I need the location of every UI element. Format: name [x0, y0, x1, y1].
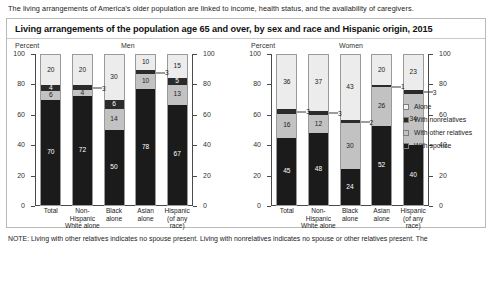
x-axis-label-women-4: Hispanic(of anyrace) [393, 207, 433, 230]
y-tick-label-left-40: 40 [17, 141, 25, 148]
bar-value-callout: 2 [370, 118, 374, 125]
y-axis-title-men: Percent [15, 42, 39, 49]
bar-segment-nonrel: 5 [168, 78, 187, 86]
bar-value-label: 30 [110, 74, 117, 81]
legend-label: With other relatives [414, 129, 472, 136]
bar-value-label: 45 [283, 168, 290, 175]
bar-value-label: 6 [112, 101, 116, 108]
x-labels-men: TotalNon-HispanicWhite aloneBlackaloneAs… [35, 207, 193, 237]
bar-segment-spouse: 48 [309, 133, 328, 205]
callout-leader-line [93, 88, 102, 89]
legend-item-otherrel[interactable]: With other relatives [403, 129, 477, 136]
bar-segment-alone: 30 [105, 55, 124, 100]
bar-segment-spouse: 70 [41, 100, 60, 205]
bar-value-label: 43 [346, 84, 353, 91]
bar-men-1[interactable]: 203472 [72, 54, 93, 206]
bars-men: 204670203472306145010310781551367 [35, 54, 193, 206]
bar-women-3[interactable]: 2012652 [371, 54, 392, 206]
bar-men-0[interactable]: 204670 [40, 54, 61, 206]
chart-title-men: Men [121, 42, 135, 49]
bar-segment-spouse: 50 [105, 130, 124, 205]
panel-title: Living arrangements of the population ag… [7, 19, 485, 38]
bar-value-callout: 3 [102, 84, 106, 91]
x-axis-label-line: White alone [62, 222, 102, 230]
bar-value-label: 12 [315, 121, 322, 128]
figure-page: The living arrangements of America’s old… [0, 0, 492, 290]
bar-value-label: 23 [410, 69, 417, 76]
y-tick-label-right-0: 0 [203, 202, 207, 209]
bar-women-1[interactable]: 3731248 [308, 54, 329, 206]
bar-segment-spouse: 78 [136, 89, 155, 205]
bar-value-label: 26 [378, 103, 385, 110]
bar-segment-spouse: 24 [341, 169, 360, 205]
bar-women-2[interactable]: 4323024 [340, 54, 361, 206]
bar-value-label: 13 [174, 91, 181, 98]
bar-value-label: 67 [174, 151, 181, 158]
bar-value-label: 50 [110, 164, 117, 171]
bar-value-callout: 1 [401, 83, 405, 90]
y-tick-label-left-100: 100 [13, 50, 25, 57]
bar-segment-spouse: 67 [168, 105, 187, 206]
bar-segment-spouse: 45 [277, 138, 296, 206]
y-tick-right-20: 20 [429, 176, 433, 177]
bar-segment-otherrel: 10 [136, 74, 155, 89]
bar-women-0[interactable]: 3631645 [276, 54, 297, 206]
y-tick-label-right-100: 100 [203, 50, 215, 57]
bar-value-label: 30 [346, 143, 353, 150]
bar-value-label: 16 [283, 122, 290, 129]
y-tick-label-right-80: 80 [439, 80, 447, 87]
bar-segment-otherrel: 6 [41, 91, 60, 100]
callout-leader-line [329, 113, 338, 114]
charts-area: Percent Men 002020404060608080100100 204… [7, 39, 485, 222]
legend-item-alone[interactable]: Alone [403, 103, 477, 110]
legend-label: With nonrelatives [414, 116, 466, 123]
x-axis-label-line: race) [157, 222, 197, 230]
y-tick-label-left-40: 40 [253, 141, 261, 148]
y-tick-label-left-0: 0 [21, 202, 25, 209]
bar-segment-alone: 37 [309, 55, 328, 111]
plot-men: 002020404060608080100100 204670203472306… [35, 54, 193, 206]
y-tick-label-left-60: 60 [17, 110, 25, 117]
legend-item-spouse[interactable]: With spouse [403, 142, 477, 149]
bar-value-label: 40 [410, 172, 417, 179]
x-labels-women: TotalNon-HispanicWhite aloneBlackaloneAs… [271, 207, 429, 237]
y-tick-label-left-80: 80 [17, 80, 25, 87]
x-axis-label-line: (of any [393, 215, 433, 223]
bar-value-label: 48 [315, 166, 322, 173]
y-tick-right-40: 40 [193, 145, 197, 146]
legend-swatch-alone [403, 104, 409, 110]
bar-men-3[interactable]: 1031078 [135, 54, 156, 206]
x-axis-label-men-4: Hispanic(of anyrace) [157, 207, 197, 230]
bar-segment-spouse: 72 [73, 96, 92, 205]
x-axis-label-line: Hispanic [393, 207, 433, 215]
bar-value-callout: 3 [306, 108, 310, 115]
callout-leader-line [297, 111, 306, 112]
bar-men-4[interactable]: 1551367 [167, 54, 188, 206]
bar-value-label: 5 [175, 78, 179, 85]
y-tick-label-left-80: 80 [253, 80, 261, 87]
y-tick-label-left-20: 20 [253, 171, 261, 178]
bar-value-label: 14 [110, 116, 117, 123]
y-tick-label-right-0: 0 [439, 202, 443, 209]
bar-segment-otherrel: 16 [277, 114, 296, 138]
callout-leader-line [392, 86, 401, 87]
y-tick-label-right-60: 60 [203, 110, 211, 117]
bar-value-label: 20 [378, 67, 385, 74]
bar-segment-otherrel: 30 [341, 123, 360, 168]
bar-value-label: 70 [47, 149, 54, 156]
bar-segment-alone: 36 [277, 55, 296, 109]
bar-value-label: 72 [79, 147, 86, 154]
callout-leader-line [156, 72, 165, 73]
y-tick-label-right-20: 20 [203, 171, 211, 178]
bar-value-label: 24 [346, 184, 353, 191]
bar-men-2[interactable]: 3061450 [104, 54, 125, 206]
x-axis-label-line: Hispanic [157, 207, 197, 215]
legend-label: With spouse [414, 142, 451, 149]
bar-segment-otherrel: 13 [168, 85, 187, 105]
bar-value-label: 36 [283, 79, 290, 86]
y-tick-label-right-80: 80 [203, 80, 211, 87]
bar-segment-spouse: 52 [372, 126, 391, 205]
y-axis-title-women: Percent [251, 42, 275, 49]
y-tick-label-right-20: 20 [439, 171, 447, 178]
bar-segment-otherrel: 14 [105, 109, 124, 130]
